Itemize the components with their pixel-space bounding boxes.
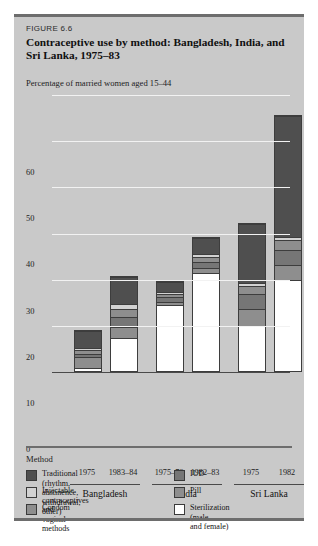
bar-segment	[111, 309, 137, 317]
bar-segment	[75, 368, 101, 371]
bar-segment	[111, 338, 137, 371]
y-axis-tick-label: 60	[26, 168, 48, 177]
bar-segment	[239, 326, 265, 371]
y-axis-tick-label: 30	[26, 307, 48, 316]
top-rule	[14, 14, 304, 17]
legend-swatch	[26, 470, 37, 481]
bar-198384-1[interactable]	[110, 276, 138, 372]
gridline	[52, 280, 290, 281]
legend-divider	[26, 446, 292, 448]
bar-segment	[193, 238, 219, 254]
gridline	[52, 95, 290, 96]
bar-segment	[275, 116, 301, 237]
y-axis-tick-label: 20	[26, 353, 48, 362]
legend-swatch	[174, 470, 185, 481]
bottom-rule	[14, 518, 304, 521]
bar-segment	[75, 357, 101, 367]
bar-segment	[111, 327, 137, 337]
legend-swatch	[174, 487, 185, 498]
figure-title: Contraceptive use by method: Bangladesh,…	[26, 36, 292, 62]
gridline	[52, 141, 290, 142]
bar-198283-3[interactable]	[192, 237, 220, 372]
y-axis-tick-label: 50	[26, 214, 48, 223]
chart-axes	[52, 95, 290, 372]
bar-1975-0[interactable]	[74, 330, 102, 372]
y-axis-tick-label: 10	[26, 399, 48, 408]
figure-card: FIGURE 6.6 Contraceptive use by method: …	[14, 14, 304, 521]
chart-plot-area: 19751983–841975–761982–8319751982 Bangla…	[26, 92, 292, 387]
chart-legend: Traditional (rhythm, abstinence, withdra…	[26, 469, 292, 517]
legend-heading: Method	[26, 454, 53, 464]
bar-segment	[275, 265, 301, 280]
gridline	[52, 187, 290, 188]
y-axis-tick-label: 40	[26, 260, 48, 269]
x-axis-line	[52, 372, 290, 373]
bar-segment	[193, 273, 219, 371]
legend-label: Pill	[190, 486, 201, 496]
bar-segment	[157, 282, 183, 292]
legend-swatch	[26, 504, 37, 515]
bar-1982-5[interactable]	[274, 115, 302, 372]
legend-swatch	[174, 504, 185, 515]
bar-segment	[239, 309, 265, 326]
bar-segment	[75, 331, 101, 347]
figure-number: FIGURE 6.6	[26, 24, 73, 33]
bar-1975-4[interactable]	[238, 223, 266, 372]
bar-segment	[239, 294, 265, 309]
bar-segment	[275, 250, 301, 265]
bar-segment	[275, 240, 301, 250]
legend-swatch	[26, 487, 37, 498]
chart-subtitle: Percentage of married women aged 15–44	[26, 78, 171, 88]
bar-segment	[239, 286, 265, 294]
gridline	[52, 234, 290, 235]
legend-label: IUD	[190, 469, 204, 479]
bar-segment	[111, 277, 137, 303]
legend-label: Condom	[42, 503, 70, 513]
gridline	[52, 326, 290, 327]
bar-segment	[157, 305, 183, 371]
